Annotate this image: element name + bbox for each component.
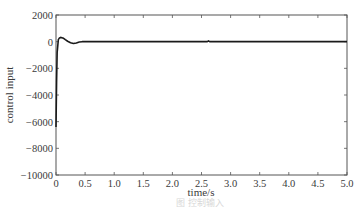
x-tick-label: 3.5 [253,178,266,189]
y-tick-label: 2000 [32,10,53,21]
y-axis-label: control input [3,67,15,124]
axis-ticks [56,15,347,175]
x-tick-label: 1.0 [108,178,121,189]
x-tick-label: 5.0 [340,178,353,189]
y-tick-labels: 20000−2000−4000−6000−8000−10000 [21,10,53,181]
figure-caption: 图 控制输入 [176,197,224,208]
x-tick-label: 0.5 [79,178,92,189]
x-tick-label: 2.0 [166,178,179,189]
line-chart: 00.51.01.52.02.53.03.54.04.55.0 20000−20… [0,0,361,208]
y-tick-label: −6000 [26,117,53,128]
y-tick-label: 0 [48,37,53,48]
plot-border [56,15,347,175]
y-tick-label: −10000 [21,170,53,181]
x-axis-label: time/s [188,186,215,198]
y-tick-label: −2000 [26,63,53,74]
y-tick-label: −8000 [26,143,53,154]
x-tick-label: 4.0 [282,178,295,189]
control-input-line [56,37,347,127]
plot-frame [56,15,347,175]
x-tick-label: 0 [53,178,58,189]
x-tick-label: 4.5 [311,178,324,189]
x-tick-label: 3.0 [224,178,237,189]
x-tick-label: 1.5 [137,178,150,189]
y-tick-label: −4000 [26,90,53,101]
